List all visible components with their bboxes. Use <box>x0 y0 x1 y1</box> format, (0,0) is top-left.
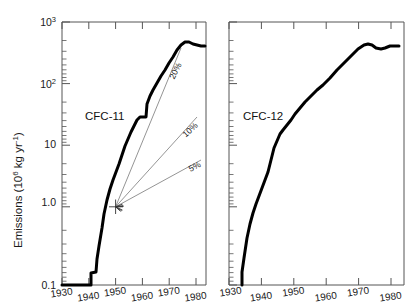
series-label-cfc12: CFC-12 <box>243 110 283 122</box>
y-tick-mantissa: 10 <box>44 138 56 150</box>
y-axis-label-mid: kg yr <box>12 143 24 171</box>
y-tick-label: 1.0 <box>41 196 56 208</box>
series-label-cfc11: CFC-11 <box>85 110 124 122</box>
y-tick-exponent: 3 <box>52 15 56 24</box>
y-tick-mantissa: 10 <box>40 78 52 90</box>
y-axis-label: Emissions (106 kg yr-1) <box>11 132 25 248</box>
y-tick-label: 10 <box>44 138 56 150</box>
y-tick-mantissa: 10 <box>40 16 52 28</box>
y-tick-mantissa: 1.0 <box>41 196 56 208</box>
emissions-chart: Emissions (106 kg yr-1) 103 102 10 1.0 0… <box>0 0 419 306</box>
y-axis-label-main: Emissions (10 <box>12 176 24 248</box>
svg-text:Emissions (106 kg yr-1): Emissions (106 kg yr-1) <box>11 132 25 248</box>
y-axis-label-close: ) <box>12 132 24 136</box>
y-tick-exponent: 2 <box>52 77 56 86</box>
chart-background <box>0 0 419 306</box>
